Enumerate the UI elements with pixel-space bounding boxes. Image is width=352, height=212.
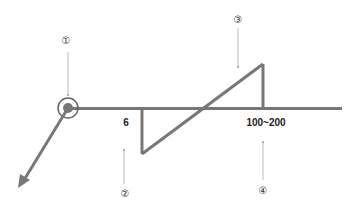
- marker-4: ④: [259, 185, 268, 196]
- arrow-shaft: [24, 108, 68, 180]
- waveform-diagram: 6 100~200 ① ② ③ ④: [0, 0, 352, 212]
- marker-3: ③: [234, 14, 243, 25]
- left-value-label: 6: [123, 117, 129, 128]
- right-value-label: 100~200: [246, 117, 285, 128]
- arrow-head-icon: [18, 174, 30, 188]
- marker-1: ①: [62, 35, 71, 46]
- diagram-canvas: [0, 0, 352, 212]
- marker-2: ②: [121, 188, 130, 199]
